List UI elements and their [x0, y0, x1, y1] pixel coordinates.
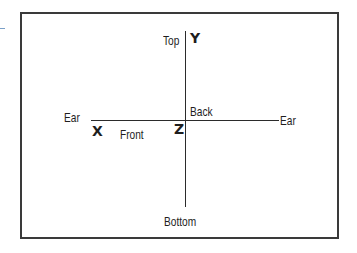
label-top: Top [163, 34, 179, 47]
label-bottom: Bottom [164, 215, 196, 228]
axis-letter-x: X [92, 124, 103, 138]
label-front: Front [120, 128, 144, 141]
label-ear-right: Ear [280, 114, 296, 127]
margin-mark [0, 28, 5, 29]
axis-letter-z: Z [174, 122, 184, 136]
label-back: Back [190, 105, 213, 118]
label-ear-left: Ear [64, 111, 80, 124]
axis-letter-y: Y [190, 31, 200, 45]
vertical-axis-line [185, 31, 186, 207]
